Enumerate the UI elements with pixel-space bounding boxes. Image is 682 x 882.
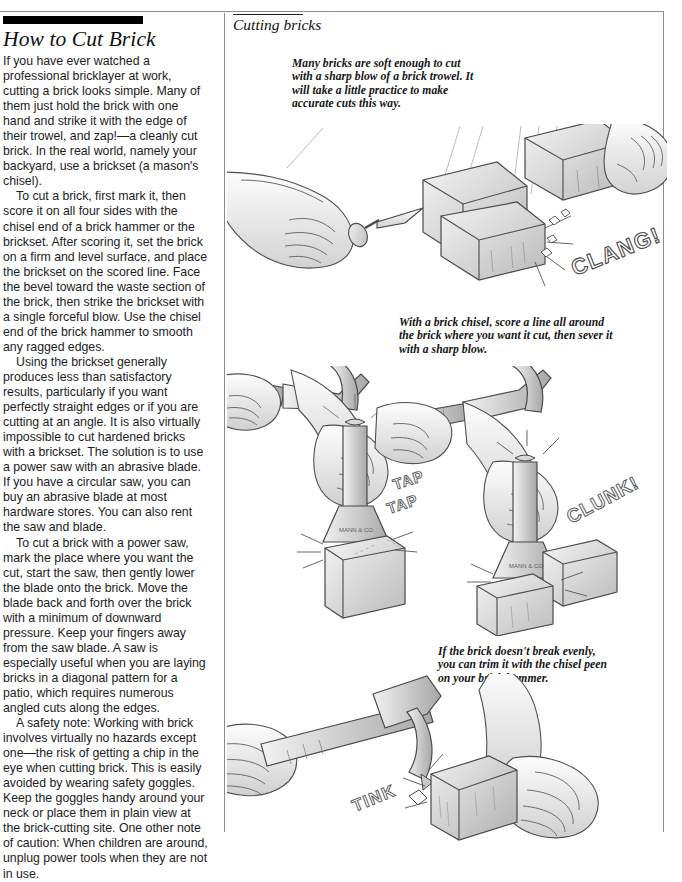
- kicker-rule: [233, 14, 303, 15]
- illustration-trowel-cut: CLANG! CLANG!: [227, 124, 667, 309]
- article-body: If you have ever watched a professional …: [3, 54, 209, 882]
- sfx-label: CLANG!: [568, 222, 665, 281]
- sfx-label: CLUNK!: [563, 472, 642, 528]
- sidebar-title: Cutting bricks: [233, 16, 664, 34]
- illustration-chisel-peen-trim: TINK TINK: [227, 674, 667, 844]
- article-column: How to Cut Brick If you have ever watche…: [3, 16, 209, 828]
- article-paragraph: A safety note: Working with brick involv…: [3, 716, 209, 882]
- sidebar-column: Cutting bricks Many bricks are soft enou…: [232, 14, 664, 832]
- headline-bar: [3, 16, 143, 24]
- article-paragraph: To cut a brick with a power saw, mark th…: [3, 536, 209, 717]
- tool-stamp: MANN & CO.: [339, 527, 375, 533]
- article-paragraph: To cut a brick, first mark it, then scor…: [3, 189, 209, 355]
- sfx-label: TAP: [391, 467, 427, 493]
- article-paragraph: If you have ever watched a professional …: [3, 54, 209, 189]
- figure-caption: With a brick chisel, score a line all ar…: [399, 316, 614, 356]
- tool-stamp: MANN & CO.: [509, 563, 545, 569]
- illustration-chisel-score: MANN & CO. TAP TAP: [227, 366, 667, 636]
- sfx-label: TINK: [349, 781, 398, 816]
- top-rule: [0, 11, 664, 12]
- page-title: How to Cut Brick: [3, 27, 209, 51]
- article-paragraph: Using the brickset generally produces le…: [3, 355, 209, 536]
- figure-caption: Many bricks are soft enough to cut with …: [292, 57, 482, 111]
- column-divider: [224, 13, 225, 832]
- sfx-label: TAP: [385, 491, 421, 517]
